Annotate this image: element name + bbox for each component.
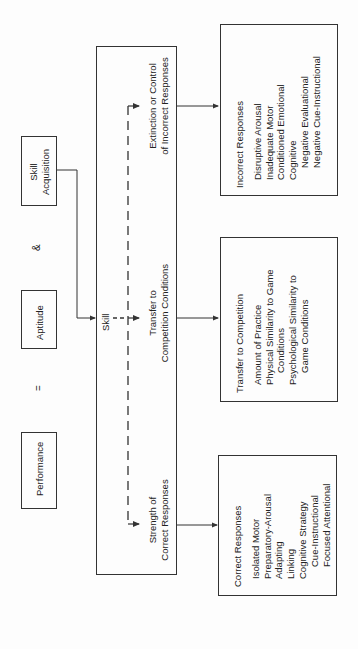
correct-title: Correct Responses xyxy=(232,484,244,587)
transfer-competition-list: Transfer to Competition Amount of Practi… xyxy=(234,269,311,393)
transfer-label: Transfer to Competition Conditions xyxy=(147,253,170,373)
transfer-title: Transfer to Competition xyxy=(234,269,246,393)
list-item: Inadequate Motor xyxy=(264,56,276,188)
correct-responses-list: Correct Responses Isolated Motor Prepara… xyxy=(232,484,332,587)
list-item: Amount of Practice xyxy=(252,269,264,393)
performance-label: Performance xyxy=(34,442,46,496)
list-item: Negative Evaluational xyxy=(299,56,311,188)
list-item: Cognitive xyxy=(287,56,299,188)
list-item: Disruptive Arousal xyxy=(252,56,264,188)
skill-box: Skill Strength of Correct Responses Tran… xyxy=(96,46,177,575)
aptitude-label: Aptitude xyxy=(34,305,46,340)
list-item: Conditions xyxy=(275,269,287,393)
list-item: Conditioned Emotional xyxy=(275,56,287,188)
list-item: Negative Cue-Instructional xyxy=(311,56,323,188)
list-item: Physical Similarity to Game xyxy=(264,269,276,393)
list-item: Game Conditions xyxy=(299,269,311,393)
transfer-competition-box: Transfer to Competition Amount of Practi… xyxy=(220,237,338,402)
skill-acquisition-label: Skill Acquisition xyxy=(28,145,51,199)
diagram-canvas: Performance = Aptitude & Skill Acquisiti… xyxy=(0,0,358,649)
list-item: Psychological Similarity to xyxy=(287,269,299,393)
skill-label: Skill xyxy=(100,314,112,331)
skill-acquisition-box: Skill Acquisition xyxy=(21,136,57,206)
list-item: Focused Attentional xyxy=(321,484,333,587)
extinction-label: Extinction or Control of Incorrect Respo… xyxy=(147,51,170,161)
incorrect-title: Incorrect Responses xyxy=(234,56,246,188)
equals-sign: = xyxy=(33,385,44,391)
incorrect-responses-box: Incorrect Responses Disruptive Arousal I… xyxy=(220,24,338,196)
strength-label: Strength of Correct Responses xyxy=(147,475,170,565)
list-item: Cue-Instructional xyxy=(309,484,321,587)
ampersand-sign: & xyxy=(31,244,42,251)
list-item: Linking xyxy=(285,484,297,587)
correct-responses-box: Correct Responses Isolated Motor Prepara… xyxy=(218,455,337,596)
list-item: Cognitive Strategy xyxy=(297,484,309,587)
list-item: Preparatory-Arousal xyxy=(262,484,274,587)
list-item: Isolated Motor xyxy=(250,484,262,587)
performance-box: Performance xyxy=(21,432,57,509)
list-item: Adapting xyxy=(273,484,285,587)
incorrect-responses-list: Incorrect Responses Disruptive Arousal I… xyxy=(234,56,323,188)
acquisition-connector xyxy=(56,170,95,318)
aptitude-box: Aptitude xyxy=(21,290,57,349)
